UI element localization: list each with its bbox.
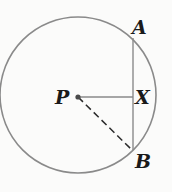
radius-pb-dashed bbox=[78, 97, 131, 149]
label-b: B bbox=[134, 150, 151, 172]
label-p: P bbox=[54, 86, 70, 108]
label-x: X bbox=[134, 86, 151, 108]
center-point-p bbox=[75, 94, 80, 99]
circle-chord-diagram: A X B P bbox=[0, 0, 172, 192]
label-a: A bbox=[130, 16, 147, 38]
